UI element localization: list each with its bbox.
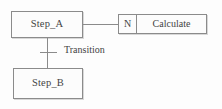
action-qualifier-label: N: [124, 19, 131, 29]
diagram-canvas: Step_A N Calculate Transition Step_B: [0, 0, 222, 109]
step-a-to-action-connector: [83, 24, 118, 25]
step-a-label: Step_A: [31, 19, 64, 30]
action-block[interactable]: N Calculate: [118, 14, 207, 34]
action-name-label: Calculate: [153, 19, 191, 29]
step-a-node[interactable]: Step_A: [11, 11, 83, 38]
step-b-label: Step_B: [32, 78, 64, 89]
action-name-cell[interactable]: Calculate: [137, 15, 206, 33]
transition-label: Transition: [64, 45, 105, 55]
transition-connector-line: [47, 38, 48, 68]
step-b-node[interactable]: Step_B: [13, 68, 83, 99]
action-qualifier-cell[interactable]: N: [119, 15, 137, 33]
transition-bar-icon[interactable]: [40, 52, 57, 53]
